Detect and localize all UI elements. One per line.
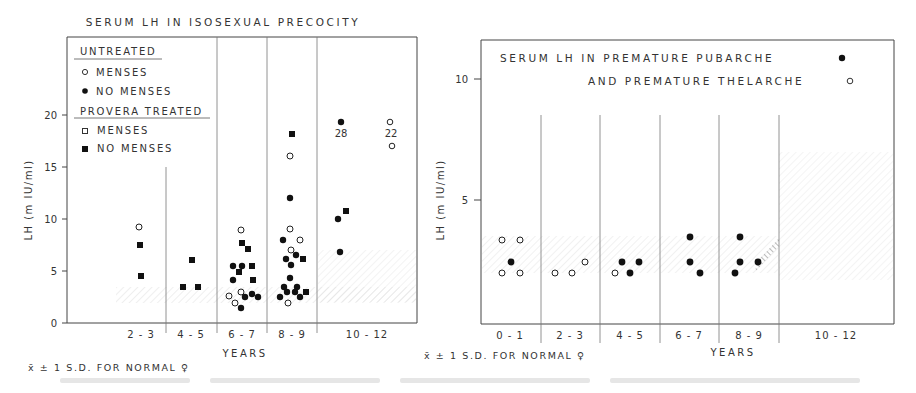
svg-text:SERUM LH IN PREMATURE PUBA: SERUM LH IN PREMATURE PUBARCHE [500, 52, 774, 64]
left-legend: UNTREATED MENSES NO MENSES PROVERA TREAT… [74, 46, 210, 154]
svg-text:UNTREATED: UNTREATED [80, 46, 157, 57]
normal-band-10-12 [779, 152, 893, 280]
right-y-label: LH (m IU/ml) [435, 159, 446, 240]
legend-filled-circle [839, 55, 845, 61]
offscale-label-22: 22 [385, 128, 398, 139]
svg-text:10: 10 [44, 214, 57, 225]
svg-text:0 - 1: 0 - 1 [496, 330, 524, 341]
svg-text:MENSES: MENSES [96, 67, 148, 78]
svg-text:NO MENSES: NO MENSES [96, 86, 172, 97]
left-y-axis: 0 5 10 15 20 [44, 110, 67, 329]
svg-text:8 - 9: 8 - 9 [735, 330, 763, 341]
svg-text:NO MENSES: NO MENSES [97, 143, 173, 154]
svg-text:PROVERA TREATED: PROVERA TREATED [80, 106, 203, 117]
svg-text:5: 5 [462, 195, 468, 206]
left-chart-title: SERUM LH IN ISOSEXUAL PRECOCITY [86, 16, 360, 28]
caption-fragment [610, 378, 860, 383]
svg-text:6 - 7: 6 - 7 [675, 330, 703, 341]
right-footnote: x̄ ± 1 S.D. FOR NORMAL ♀ [424, 350, 586, 361]
right-chart-title: SERUM LH IN PREMATURE PUBARCHE AND PREMA… [500, 52, 853, 87]
svg-text:6 - 7: 6 - 7 [228, 329, 256, 340]
normal-band-10-12 [318, 250, 416, 302]
svg-text:10: 10 [455, 74, 468, 85]
svg-text:8 - 9: 8 - 9 [278, 329, 306, 340]
left-footnote: x̄ ± 1 S.D. FOR NORMAL ♀ [28, 362, 190, 373]
right-x-label: YEARS [709, 347, 755, 358]
svg-text:10 - 12: 10 - 12 [815, 330, 857, 341]
caption-fragment [60, 378, 190, 383]
normal-band [482, 236, 778, 273]
left-x-label: YEARS [221, 348, 267, 359]
svg-text:0: 0 [51, 318, 57, 329]
caption-fragment [210, 378, 380, 383]
svg-text:2 - 3: 2 - 3 [556, 330, 584, 341]
svg-text:4 - 5: 4 - 5 [616, 330, 644, 341]
caption-fragment [400, 378, 590, 383]
right-chart: SERUM LH IN PREMATURE PUBARCHE AND PREMA… [424, 40, 894, 361]
left-chart: SERUM LH IN ISOSEXUAL PRECOCITY 0 5 10 1… [23, 16, 417, 373]
svg-text:2 - 3: 2 - 3 [127, 329, 155, 340]
legend-open-circle [847, 78, 853, 84]
offscale-label-28: 28 [335, 128, 348, 139]
svg-text:10 - 12: 10 - 12 [346, 329, 388, 340]
figure: SERUM LH IN ISOSEXUAL PRECOCITY 0 5 10 1… [0, 0, 916, 393]
svg-text:20: 20 [44, 110, 57, 121]
svg-text:4 - 5: 4 - 5 [177, 329, 205, 340]
left-y-label: LH (m IU/ml) [23, 159, 34, 240]
svg-text:15: 15 [44, 162, 57, 173]
svg-text:5: 5 [51, 266, 57, 277]
right-x-axis: 0 - 1 2 - 3 4 - 5 6 - 7 8 - 9 10 - 12 [496, 330, 857, 341]
svg-text:MENSES: MENSES [97, 125, 149, 136]
right-y-axis: 5 10 [455, 74, 481, 206]
svg-text:AND PREMATURE THELARCHE: AND PREMATURE THELARCHE [588, 75, 804, 87]
